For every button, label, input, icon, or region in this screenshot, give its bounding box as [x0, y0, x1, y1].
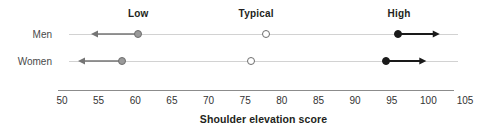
x-tick-95: 95: [386, 95, 397, 106]
band-header-low: Low: [128, 8, 149, 19]
x-axis-line: [58, 90, 454, 91]
low-cutoff-marker-men: [134, 30, 142, 38]
x-tick-70: 70: [203, 95, 214, 106]
x-tick-100: 100: [420, 95, 437, 106]
band-header-high: High: [388, 8, 411, 19]
x-tick-90: 90: [350, 95, 361, 106]
high-cutoff-marker-women: [382, 57, 390, 65]
x-tick-55: 55: [93, 95, 104, 106]
typical-marker-women: [247, 57, 255, 65]
x-tick-65: 65: [166, 95, 177, 106]
x-tick-60: 60: [130, 95, 141, 106]
typical-marker-men: [262, 30, 270, 38]
band-header-typical: Typical: [239, 8, 274, 19]
x-tick-80: 80: [276, 95, 287, 106]
row-label-women: Women: [0, 56, 52, 67]
high-cutoff-marker-men: [394, 30, 402, 38]
x-tick-75: 75: [240, 95, 251, 106]
x-tick-50: 50: [56, 95, 67, 106]
low-cutoff-marker-women: [118, 57, 126, 65]
row-label-men: Men: [0, 29, 52, 40]
x-tick-85: 85: [313, 95, 324, 106]
shoulder-elevation-score-chart: Low Typical High Men Women 5055606570758…: [0, 0, 489, 130]
x-tick-105: 105: [457, 95, 474, 106]
x-axis-title: Shoulder elevation score: [200, 113, 327, 125]
